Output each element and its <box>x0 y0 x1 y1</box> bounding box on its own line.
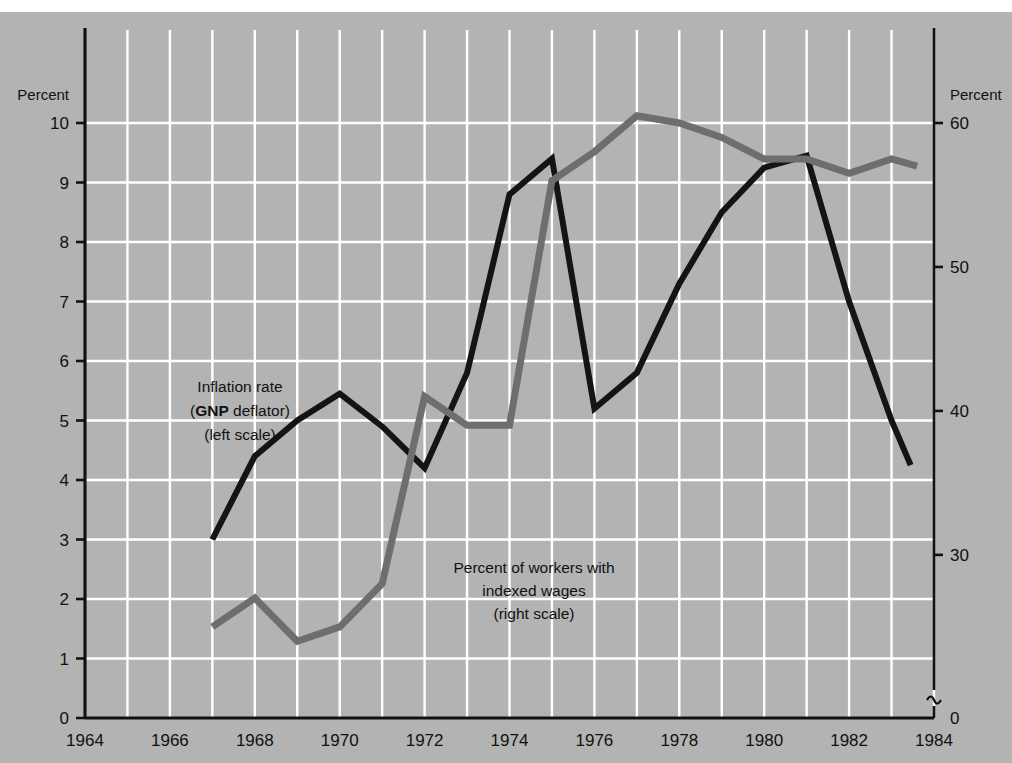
indexed-annotation-line1: Percent of workers with <box>453 559 614 576</box>
inflation-annotation-deflator: deflator) <box>229 402 290 419</box>
chart-plot-area: 109876543210Percent605040300Percent19641… <box>0 0 1012 763</box>
x-axis-tick-label: 1968 <box>236 731 274 750</box>
x-axis-tick-label: 1984 <box>915 731 953 750</box>
left-axis-tick-label: 0 <box>60 709 69 728</box>
left-axis-tick-label: 7 <box>60 293 69 312</box>
left-axis-tick-label: 5 <box>60 412 69 431</box>
inflation-annotation-gnp: GNP <box>195 402 229 419</box>
inflation-annotation-line2: (GNP deflator) <box>190 402 290 419</box>
chart-figure: 109876543210Percent605040300Percent19641… <box>0 0 1012 763</box>
x-axis-tick-label: 1970 <box>321 731 359 750</box>
right-axis-tick-label: 40 <box>950 402 969 421</box>
x-axis-tick-label: 1972 <box>406 731 444 750</box>
left-axis-tick-label: 9 <box>60 174 69 193</box>
right-axis-zero-label: 0 <box>950 709 959 728</box>
x-axis-tick-label: 1974 <box>491 731 529 750</box>
left-axis-tick-label: 4 <box>60 471 69 490</box>
right-axis-tick-label: 60 <box>950 114 969 133</box>
chart-svg: 109876543210Percent605040300Percent19641… <box>0 0 1012 763</box>
x-axis-tick-label: 1980 <box>745 731 783 750</box>
x-axis-tick-label: 1966 <box>151 731 189 750</box>
inflation-annotation-line3: (left scale) <box>204 426 276 443</box>
indexed-annotation-line3: (right scale) <box>494 605 575 622</box>
x-axis-tick-label: 1976 <box>575 731 613 750</box>
right-axis-unit-label: Percent <box>950 86 1003 103</box>
left-axis-tick-label: 3 <box>60 531 69 550</box>
left-axis-tick-label: 2 <box>60 590 69 609</box>
left-axis-tick-label: 10 <box>50 114 69 133</box>
left-axis-unit-label: Percent <box>17 86 70 103</box>
x-axis-tick-label: 1978 <box>660 731 698 750</box>
left-axis-tick-label: 6 <box>60 352 69 371</box>
right-axis-tick-label: 30 <box>950 546 969 565</box>
left-axis-tick-label: 8 <box>60 233 69 252</box>
indexed-annotation-line2: indexed wages <box>482 582 586 599</box>
right-axis-tick-label: 50 <box>950 258 969 277</box>
x-axis-tick-label: 1982 <box>830 731 868 750</box>
x-axis-tick-label: 1964 <box>66 731 104 750</box>
left-axis-tick-label: 1 <box>60 650 69 669</box>
inflation-annotation-line1: Inflation rate <box>197 378 282 395</box>
